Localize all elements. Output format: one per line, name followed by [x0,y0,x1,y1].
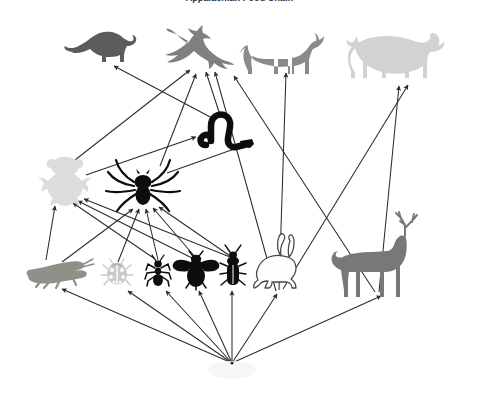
organism-wolf[interactable] [239,33,324,74]
organism-deer[interactable] [332,212,418,297]
organism-weasel[interactable] [64,32,136,62]
organism-ladybug[interactable] [101,259,133,285]
spider-cephalothorax-icon [135,175,152,189]
arrow-beetle-to-spider [159,207,233,258]
arrow-bee-to-spider [153,208,196,258]
deer-antlers-icon [396,212,417,236]
grasshopper-antennae-icon [82,259,94,267]
arrow-frog-to-snake [86,137,196,175]
wolf-icon [239,33,324,74]
arrow-plants-to-grasshopper [62,289,232,363]
arrow-spider-to-eagle [160,74,196,166]
cougar-icon [347,33,445,78]
beetle-head-icon [229,252,237,259]
eagle-icon [165,25,234,69]
arrow-grasshopper-to-spider [62,209,133,262]
arrow-bee-to-frog [78,201,192,258]
arrow-layer [46,66,408,363]
spider-fangs-icon [136,169,150,174]
frog-icon [38,157,92,206]
food-web-diagram: Appalachian Food Chain [0,0,479,397]
food-web-canvas [0,0,479,397]
arrow-snake-to-weasel [114,66,214,119]
arrow-ant-to-spider [146,209,158,260]
arrow-snake-to-eagle [206,72,221,118]
arrow-beetle-to-frog [84,199,230,257]
organism-rabbit[interactable] [254,234,296,288]
beetle-antennae-icon [225,245,241,252]
organism-frog[interactable] [38,157,92,206]
organism-cougar[interactable] [347,33,445,78]
organism-eagle[interactable] [165,25,234,69]
weasel-icon [64,32,136,62]
arrow-grasshopper-to-frog [46,206,55,260]
organism-grasshopper[interactable] [27,259,94,288]
arrow-plants-to-ant [166,291,232,363]
plants-node [230,361,233,364]
organism-spider[interactable] [106,160,180,211]
arrow-plants-to-ladybug [128,291,232,363]
rabbit-icon [254,234,296,288]
arrow-frog-to-weasel [75,70,190,160]
organism-bee[interactable] [173,251,220,290]
snake-icon [201,114,244,147]
organism-snake[interactable] [201,114,254,148]
snake-head-icon [240,139,254,148]
ant-icon [153,261,163,286]
deer-icon [332,236,407,297]
organism-plants[interactable] [208,361,256,379]
organism-beetle[interactable] [220,245,246,285]
grasshopper-icon [27,261,87,283]
